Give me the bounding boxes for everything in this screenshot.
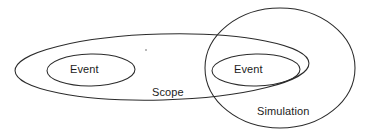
diagram-canvas: Event Event Scope Simulation [0, 0, 369, 134]
event-right-label: Event [234, 64, 263, 75]
diagram-vector-layer [0, 0, 369, 134]
scope-label: Scope [152, 87, 184, 98]
simulation-label: Simulation [257, 106, 309, 117]
scan-artifact-speck [145, 49, 147, 51]
event-left-label: Event [70, 64, 99, 75]
